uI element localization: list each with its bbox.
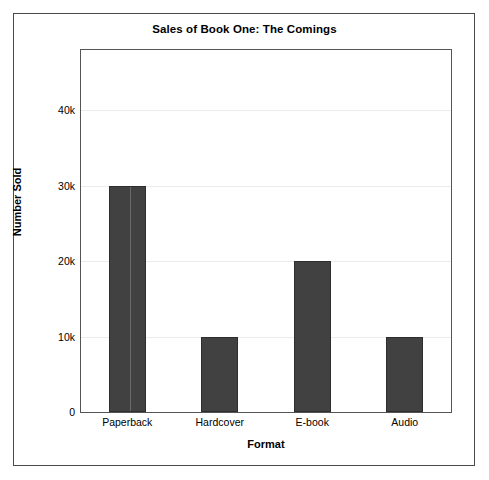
- x-tick-label: Hardcover: [196, 416, 244, 428]
- plot-area: [80, 49, 452, 413]
- y-tick-label: 20k: [5, 255, 75, 267]
- bar-audio[interactable]: [386, 337, 423, 412]
- x-tick-label: Paperback: [102, 416, 152, 428]
- bar-e-book[interactable]: [294, 261, 331, 412]
- scan-seam: [130, 187, 131, 411]
- y-tick-label: 40k: [5, 104, 75, 116]
- y-tick-label: 0: [5, 406, 75, 418]
- bar-paperback[interactable]: [109, 186, 146, 412]
- y-axis-title: Number Sold: [11, 152, 23, 252]
- x-tick-label: Audio: [391, 416, 418, 428]
- x-tick-label: E-book: [296, 416, 329, 428]
- x-axis-tick-labels: PaperbackHardcoverE-bookAudio: [80, 416, 452, 432]
- chart-title: Sales of Book One: The Comings: [0, 23, 489, 35]
- bar-hardcover[interactable]: [201, 337, 238, 412]
- gridline: [81, 110, 451, 111]
- y-tick-label: 10k: [5, 331, 75, 343]
- plot-inner: [81, 50, 451, 412]
- x-axis-title: Format: [80, 438, 452, 450]
